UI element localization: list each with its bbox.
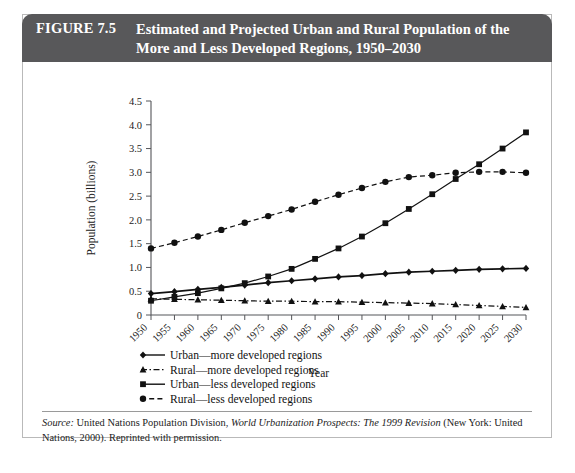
data-point-circle [335, 191, 341, 197]
data-point-square [382, 220, 388, 226]
source-note: Source: United Nations Population Divisi… [42, 416, 534, 446]
series-2 [148, 295, 530, 310]
data-point-circle [452, 170, 458, 176]
data-point-diamond [312, 275, 318, 282]
figure-header-bar: FIGURE 7.5 Estimated and Projected Urban… [22, 14, 552, 62]
data-point-circle [140, 396, 146, 402]
y-tick-label: 0.5 [129, 286, 142, 297]
x-tick-label: 1970 [221, 322, 244, 345]
data-point-square [312, 256, 318, 262]
x-tick-label: 1990 [314, 322, 337, 345]
data-point-square [195, 290, 201, 296]
x-tick-label: 1955 [150, 322, 173, 345]
data-point-square [148, 298, 154, 304]
x-tick-label: 2015 [431, 322, 454, 345]
data-point-circle [288, 206, 294, 212]
data-point-diamond [265, 279, 271, 286]
x-tick-label: 1995 [338, 322, 361, 345]
source-label: Source: [42, 417, 74, 428]
series-1 [148, 265, 529, 297]
data-point-square [140, 381, 146, 387]
data-point-diamond [140, 351, 146, 358]
data-point-diamond [335, 273, 341, 280]
y-tick-label: 3.5 [129, 143, 142, 154]
data-point-circle [265, 213, 271, 219]
series-4 [148, 169, 529, 252]
x-tick-label: 2030 [502, 322, 525, 345]
data-point-square [429, 191, 435, 197]
data-point-circle [359, 185, 365, 191]
data-point-square [476, 161, 482, 167]
data-point-triangle [382, 299, 389, 305]
chart-plot-area: 00.51.01.52.02.53.03.54.04.5Population (… [23, 63, 551, 408]
legend-label: Rural—less developed regions [170, 393, 313, 406]
x-tick-label: 2005 [385, 322, 408, 345]
source-work-title: World Urbanization Prospects: The 1999 R… [231, 417, 441, 428]
y-tick-label: 2.0 [129, 215, 142, 226]
series-line [151, 172, 526, 249]
y-tick-label: 1.5 [129, 238, 142, 249]
y-tick-label: 4.0 [129, 120, 142, 131]
data-point-circle [195, 233, 201, 239]
legend-item-1: Urban—more developed regions [140, 349, 323, 362]
x-tick-label: 2025 [478, 322, 501, 345]
data-point-triangle [194, 296, 201, 302]
y-tick-label: 4.5 [129, 96, 142, 107]
x-tick-label: 2010 [408, 322, 431, 345]
data-point-circle [499, 169, 505, 175]
x-tick-label: 1965 [197, 322, 220, 345]
x-tick-label: 2000 [361, 322, 384, 345]
y-tick-label: 0 [137, 310, 142, 321]
y-tick-label: 3.0 [129, 167, 142, 178]
data-point-circle [148, 245, 154, 251]
data-point-circle [218, 227, 224, 233]
figure-box: FIGURE 7.5 Estimated and Projected Urban… [22, 14, 552, 438]
data-point-diamond [359, 272, 365, 279]
data-point-triangle [523, 304, 530, 310]
data-point-diamond [523, 265, 529, 272]
y-tick-label: 2.5 [129, 191, 142, 202]
data-point-diamond [406, 269, 412, 276]
x-tick-label: 2020 [455, 322, 478, 345]
line-chart: 00.51.01.52.02.53.03.54.04.5Population (… [23, 63, 551, 408]
figure-title: Estimated and Projected Urban and Rural … [132, 14, 552, 59]
data-point-diamond [476, 266, 482, 273]
legend-label: Urban—less developed regions [170, 378, 316, 391]
series-line [151, 268, 526, 293]
data-point-diamond [288, 277, 294, 284]
data-point-square [265, 274, 271, 280]
data-point-diamond [452, 267, 458, 274]
data-point-square [172, 294, 178, 300]
y-axis-title: Population (billions) [85, 160, 98, 255]
data-point-square [218, 285, 224, 291]
figure-number-label: FIGURE 7.5 [22, 14, 132, 37]
legend-label: Urban—more developed regions [170, 349, 322, 362]
data-point-square [453, 176, 459, 182]
chart-axes [151, 101, 526, 315]
x-tick-label: 1985 [291, 322, 314, 345]
x-tick-label: 1950 [127, 322, 150, 345]
data-point-circle [406, 174, 412, 180]
data-point-square [289, 266, 295, 272]
data-point-diamond [499, 265, 505, 272]
source-divider [42, 411, 532, 412]
data-point-square [523, 129, 529, 135]
legend-item-2: Rural—more developed regions [140, 364, 320, 377]
data-point-square [500, 146, 506, 152]
y-tick-label: 1.0 [129, 262, 142, 273]
data-point-square [406, 206, 412, 212]
x-tick-label: 1960 [174, 322, 197, 345]
data-point-diamond [382, 270, 388, 277]
legend-item-3: Urban—less developed regions [140, 378, 316, 391]
x-tick-label: 1975 [244, 322, 267, 345]
legend-label: Rural—more developed regions [170, 364, 319, 377]
data-point-square [242, 280, 248, 286]
data-point-square [336, 246, 342, 252]
data-point-circle [429, 172, 435, 178]
data-point-circle [171, 240, 177, 246]
data-point-square [359, 234, 365, 240]
data-point-circle [382, 179, 388, 185]
data-point-circle [242, 220, 248, 226]
data-point-diamond [429, 268, 435, 275]
data-point-circle [476, 169, 482, 175]
